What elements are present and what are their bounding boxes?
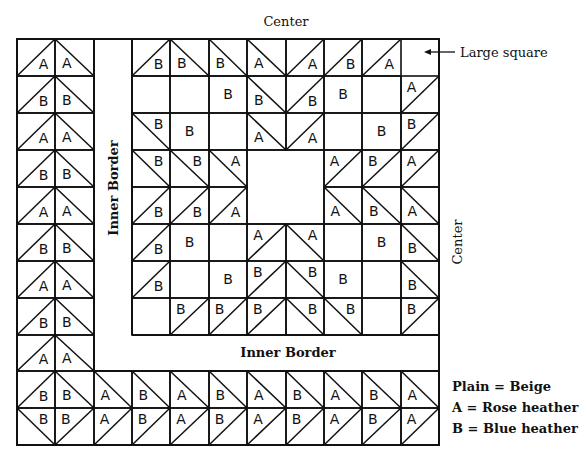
center-block-cell: B <box>401 261 439 298</box>
diagonal-line <box>132 187 170 224</box>
patch-color-label: A <box>407 411 417 427</box>
legend-item-plain: Plain = Beige <box>452 379 551 394</box>
diagonal-line <box>17 113 55 150</box>
bottom-border-cell: B <box>17 408 55 445</box>
patch-color-label: B <box>61 411 71 427</box>
quilt-cells: AABBAABBAABBAABBAABBBAABABBBBABBAABBBBAA… <box>17 39 439 445</box>
patch-color-label: B <box>369 387 379 403</box>
large-square-indicator: Large square <box>401 39 548 76</box>
patch-color-label: B <box>39 388 49 404</box>
diagonal-line <box>17 224 55 261</box>
left-border-cell: B <box>55 150 94 187</box>
diagonal-line <box>132 224 170 261</box>
patch-color-label: B <box>185 123 195 139</box>
patch-color-label: A <box>408 387 418 403</box>
left-border-cell: A <box>17 335 55 371</box>
cell-outline <box>362 76 401 113</box>
diagonal-line <box>170 187 209 224</box>
center-block-cell: B <box>401 113 439 150</box>
patch-color-label: A <box>253 227 263 243</box>
patch-color-label: B <box>223 86 233 102</box>
diagonal-line <box>17 150 55 187</box>
bottom-border-cell: B <box>55 371 94 408</box>
diagonal-line <box>17 335 55 371</box>
center-block-cell: B <box>170 113 209 150</box>
left-border-cell: A <box>17 187 55 224</box>
patch-color-label: A <box>62 203 72 219</box>
patch-color-label: B <box>223 271 233 287</box>
bottom-border-cell: B <box>132 408 170 445</box>
patch-color-label: B <box>254 92 264 108</box>
left-border-cell: B <box>55 224 94 261</box>
diagonal-line <box>55 76 94 113</box>
patch-color-label: B <box>62 314 72 330</box>
patch-color-label: B <box>176 301 186 317</box>
diagonal-line <box>286 298 324 335</box>
patch-color-label: B <box>216 55 226 71</box>
center-block-cell: B <box>324 76 362 113</box>
center-block-cell: B <box>170 224 209 261</box>
center-block-cell: A <box>247 39 286 76</box>
center-block-cell: B <box>209 261 247 298</box>
center-block-cell: B <box>362 113 401 150</box>
center-block-cell: B <box>209 76 247 113</box>
left-border-cell: A <box>55 261 94 298</box>
patch-color-label: A <box>308 56 318 72</box>
center-block-cell: B <box>324 39 362 76</box>
left-border-cell: A <box>55 335 94 371</box>
center-block-cell: A <box>247 113 286 150</box>
patch-color-label: B <box>39 167 49 183</box>
patch-color-label: B <box>308 301 318 317</box>
patch-color-label: A <box>408 203 418 219</box>
patch-color-label: A <box>62 129 72 145</box>
diagonal-line <box>17 187 55 224</box>
left-border-cell: A <box>55 113 94 150</box>
patch-color-label: B <box>407 116 417 132</box>
center-block-cell: B <box>362 224 401 261</box>
patch-color-label: B <box>62 166 72 182</box>
cell-outline <box>132 76 170 113</box>
bottom-border-cell: A <box>94 408 132 445</box>
diagonal-line <box>132 150 170 187</box>
diagonal-line <box>247 76 286 113</box>
bottom-border-cell: B <box>286 371 324 408</box>
patch-color-label: A <box>100 411 110 427</box>
diagonal-line <box>55 224 94 261</box>
cell-outline <box>362 298 401 335</box>
center-block-cell: B <box>247 261 286 298</box>
center-block-cell <box>170 76 209 113</box>
bottom-border-cell: A <box>324 371 362 408</box>
diagonal-line <box>17 408 55 445</box>
diagonal-line <box>286 224 324 261</box>
center-block-cell: B <box>324 298 362 335</box>
patch-color-label: B <box>377 123 387 139</box>
patch-color-label: B <box>346 301 356 317</box>
bottom-border-cell: B <box>362 408 401 445</box>
diagonal-line <box>55 150 94 187</box>
patch-color-label: A <box>231 204 241 220</box>
legend-key: Plain <box>452 379 490 394</box>
center-block-cell <box>362 298 401 335</box>
patch-color-label: B <box>338 271 348 287</box>
diagonal-line <box>17 261 55 298</box>
patch-color-label: B <box>369 203 379 219</box>
center-block-cell: B <box>209 298 247 335</box>
bottom-border-cell: B <box>209 408 247 445</box>
patch-color-label: A <box>231 153 241 169</box>
patch-color-label: B <box>154 116 164 132</box>
legend-value: Beige <box>509 379 551 394</box>
patch-color-label: A <box>39 278 49 294</box>
patch-color-label: B <box>293 387 303 403</box>
center-block-cell <box>132 298 170 335</box>
arrowhead-icon <box>424 49 431 55</box>
diagonal-line <box>17 298 55 335</box>
patch-color-label: B <box>292 411 302 427</box>
patch-color-label: A <box>62 350 72 366</box>
left-border-cell: A <box>55 187 94 224</box>
patch-color-label: B <box>154 153 164 169</box>
diagonal-line <box>17 371 55 408</box>
dashed-square-outline <box>401 39 439 76</box>
center-block-cell <box>362 76 401 113</box>
patch-color-label: B <box>215 411 225 427</box>
left-border-cell: B <box>17 224 55 261</box>
